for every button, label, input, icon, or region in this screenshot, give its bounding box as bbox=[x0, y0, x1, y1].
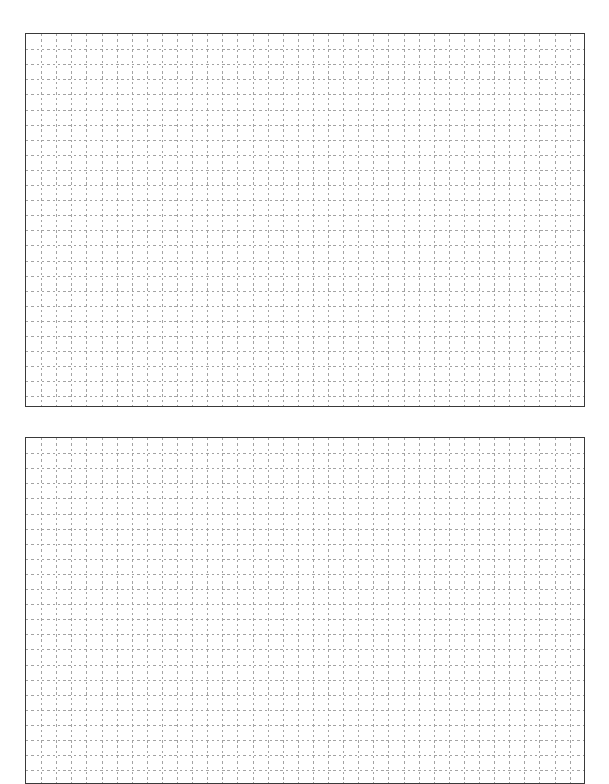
grid-line-horizontal bbox=[26, 604, 584, 605]
grid-line-vertical bbox=[283, 34, 284, 406]
grid-line-horizontal bbox=[26, 291, 584, 292]
grid-line-vertical bbox=[555, 34, 556, 406]
grid-line-vertical bbox=[298, 34, 299, 406]
grid-line-vertical bbox=[102, 438, 103, 783]
grid-line-vertical bbox=[570, 438, 571, 783]
grid-line-horizontal bbox=[26, 468, 584, 469]
grid-line-vertical bbox=[313, 34, 314, 406]
grid-line-vertical bbox=[86, 438, 87, 783]
grid-line-vertical bbox=[388, 34, 389, 406]
grid-line-vertical bbox=[479, 34, 480, 406]
grid-line-vertical bbox=[539, 438, 540, 783]
grid-line-horizontal bbox=[26, 215, 584, 216]
grid-line-horizontal bbox=[26, 276, 584, 277]
grid-line-vertical bbox=[207, 438, 208, 783]
grid-line-vertical bbox=[313, 438, 314, 783]
grid-line-horizontal bbox=[26, 79, 584, 80]
grid-line-horizontal bbox=[26, 261, 584, 262]
grid-line-vertical bbox=[494, 438, 495, 783]
grid-line-vertical bbox=[328, 438, 329, 783]
grid-line-vertical bbox=[162, 438, 163, 783]
grid-line-horizontal bbox=[26, 574, 584, 575]
grid-line-vertical bbox=[132, 34, 133, 406]
grid-line-horizontal bbox=[26, 680, 584, 681]
grid-line-vertical bbox=[419, 438, 420, 783]
grid-line-horizontal bbox=[26, 245, 584, 246]
grid-line-vertical bbox=[419, 34, 420, 406]
grid-line-vertical bbox=[570, 34, 571, 406]
grid-line-vertical bbox=[449, 34, 450, 406]
grid-panel-top bbox=[25, 33, 585, 407]
grid-line-horizontal bbox=[26, 185, 584, 186]
grid-line-horizontal bbox=[26, 589, 584, 590]
grid-line-vertical bbox=[132, 438, 133, 783]
grid-line-vertical bbox=[237, 34, 238, 406]
grid-line-vertical bbox=[343, 34, 344, 406]
grid-line-horizontal bbox=[26, 94, 584, 95]
grid-line-horizontal bbox=[26, 725, 584, 726]
grid-line-vertical bbox=[464, 438, 465, 783]
grid-line-horizontal bbox=[26, 453, 584, 454]
grid-lattice-bottom bbox=[26, 438, 584, 783]
grid-line-horizontal bbox=[26, 710, 584, 711]
grid-line-vertical bbox=[207, 34, 208, 406]
grid-line-horizontal bbox=[26, 498, 584, 499]
grid-line-horizontal bbox=[26, 396, 584, 397]
grid-line-vertical bbox=[41, 438, 42, 783]
grid-line-vertical bbox=[237, 438, 238, 783]
grid-line-vertical bbox=[222, 438, 223, 783]
grid-line-vertical bbox=[147, 438, 148, 783]
grid-line-vertical bbox=[539, 34, 540, 406]
grid-line-horizontal bbox=[26, 755, 584, 756]
grid-line-horizontal bbox=[26, 306, 584, 307]
grid-line-vertical bbox=[283, 438, 284, 783]
grid-line-vertical bbox=[358, 438, 359, 783]
grid-line-horizontal bbox=[26, 529, 584, 530]
grid-line-vertical bbox=[509, 34, 510, 406]
grid-line-vertical bbox=[434, 438, 435, 783]
grid-line-vertical bbox=[253, 438, 254, 783]
grid-line-horizontal bbox=[26, 140, 584, 141]
grid-line-vertical bbox=[358, 34, 359, 406]
grid-line-vertical bbox=[147, 34, 148, 406]
grid-line-vertical bbox=[102, 34, 103, 406]
grid-line-vertical bbox=[328, 34, 329, 406]
grid-line-horizontal bbox=[26, 200, 584, 201]
grid-line-vertical bbox=[117, 438, 118, 783]
grid-line-horizontal bbox=[26, 634, 584, 635]
grid-line-horizontal bbox=[26, 619, 584, 620]
grid-line-horizontal bbox=[26, 514, 584, 515]
grid-line-vertical bbox=[56, 438, 57, 783]
grid-line-vertical bbox=[373, 34, 374, 406]
grid-line-horizontal bbox=[26, 336, 584, 337]
grid-line-vertical bbox=[434, 34, 435, 406]
grid-line-vertical bbox=[464, 34, 465, 406]
grid-panel-bottom bbox=[25, 437, 585, 784]
grid-line-horizontal bbox=[26, 321, 584, 322]
grid-line-horizontal bbox=[26, 366, 584, 367]
grid-line-vertical bbox=[41, 34, 42, 406]
grid-line-vertical bbox=[524, 438, 525, 783]
grid-line-horizontal bbox=[26, 381, 584, 382]
grid-line-horizontal bbox=[26, 230, 584, 231]
grid-line-horizontal bbox=[26, 559, 584, 560]
grid-line-vertical bbox=[86, 34, 87, 406]
grid-line-vertical bbox=[404, 34, 405, 406]
grid-line-vertical bbox=[404, 438, 405, 783]
grid-line-vertical bbox=[449, 438, 450, 783]
grid-line-horizontal bbox=[26, 351, 584, 352]
grid-line-vertical bbox=[177, 34, 178, 406]
grid-line-vertical bbox=[343, 438, 344, 783]
grid-line-vertical bbox=[509, 438, 510, 783]
grid-line-horizontal bbox=[26, 483, 584, 484]
grid-line-vertical bbox=[388, 438, 389, 783]
clipped-caption-band bbox=[0, 0, 609, 6]
grid-line-horizontal bbox=[26, 770, 584, 771]
grid-line-horizontal bbox=[26, 64, 584, 65]
grid-line-vertical bbox=[298, 438, 299, 783]
grid-line-horizontal bbox=[26, 649, 584, 650]
grid-line-vertical bbox=[162, 34, 163, 406]
grid-line-vertical bbox=[222, 34, 223, 406]
grid-line-horizontal bbox=[26, 125, 584, 126]
grid-line-vertical bbox=[373, 438, 374, 783]
